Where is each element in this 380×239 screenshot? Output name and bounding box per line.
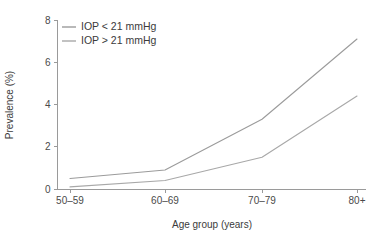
series-line-1: [70, 39, 357, 178]
legend-label-1: IOP < 21 mmHg: [81, 20, 157, 32]
series-line-2: [70, 96, 357, 187]
y-axis-ticks: 02468: [45, 15, 58, 195]
chart-legend: IOP < 21 mmHgIOP > 21 mmHg: [62, 20, 157, 46]
series-lines: [70, 39, 357, 187]
x-axis-title: Age group (years): [172, 219, 252, 230]
x-tick-label: 50–59: [56, 195, 84, 206]
y-tick-label: 4: [45, 99, 51, 110]
y-tick-label: 2: [45, 141, 51, 152]
x-tick-label: 80+: [349, 195, 366, 206]
y-tick-label: 0: [45, 184, 51, 195]
prevalence-line-chart: 02468 50–5960–6970–7980+ Age group (year…: [0, 0, 380, 239]
legend-label-2: IOP > 21 mmHg: [81, 34, 157, 46]
x-tick-label: 70–79: [248, 195, 276, 206]
chart-canvas: 02468 50–5960–6970–7980+ Age group (year…: [0, 0, 380, 239]
y-tick-label: 8: [45, 15, 51, 26]
x-tick-label: 60–69: [151, 195, 179, 206]
y-axis-title: Prevalence (%): [4, 71, 15, 139]
x-axis-ticks: 50–5960–6970–7980+: [56, 189, 366, 206]
y-tick-label: 6: [45, 57, 51, 68]
